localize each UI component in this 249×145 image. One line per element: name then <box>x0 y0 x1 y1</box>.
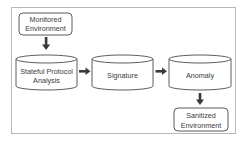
arrow-right-icon <box>79 68 91 76</box>
node-label-line: Signature <box>107 71 138 80</box>
diagram-canvas: Monitored Environment Stateful Protocol … <box>0 0 249 145</box>
node-stateful-protocol-analysis: Stateful Protocol Analysis <box>16 55 77 90</box>
node-label-line: Environment <box>181 121 221 130</box>
node-label-line: Anomaly <box>186 71 214 80</box>
arrow-right-icon <box>156 68 168 76</box>
arrow-down-icon <box>196 93 204 105</box>
node-signature: Signature <box>92 55 153 90</box>
arrow-down-icon <box>42 37 50 50</box>
node-label-line: Environment <box>25 24 65 33</box>
node-label-line: Analysis <box>33 76 60 85</box>
node-label-line: Monitored <box>30 15 62 24</box>
node-monitored-environment: Monitored Environment <box>19 13 72 35</box>
node-sanitized-environment: Sanitized Environment <box>174 108 228 131</box>
node-label-line: Sanitized <box>186 111 216 120</box>
diagram-svg: Monitored Environment Stateful Protocol … <box>0 0 249 145</box>
node-anomaly: Anomaly <box>169 55 231 90</box>
node-label-line: Stateful Protocol <box>20 67 73 76</box>
